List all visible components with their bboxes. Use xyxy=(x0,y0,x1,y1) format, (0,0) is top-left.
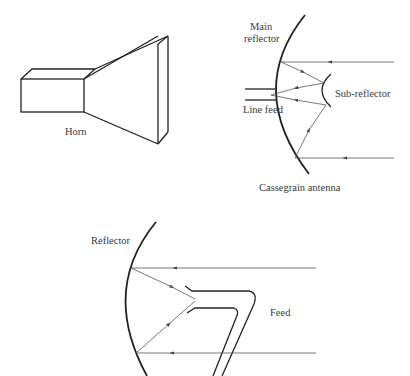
sub-reflector-label: Sub-reflector xyxy=(335,88,391,99)
horn-label: Horn xyxy=(65,126,87,137)
reflector-label: Reflector xyxy=(91,235,131,246)
horn-antenna: Horn xyxy=(21,36,168,144)
main-reflector xyxy=(276,15,309,174)
line-feed-label: Line feed xyxy=(243,104,284,115)
main-reflector-label-line1: Main xyxy=(250,21,273,32)
feed-inner xyxy=(187,308,238,376)
feed-label: Feed xyxy=(270,307,291,318)
main-reflector-label-line2: reflector xyxy=(244,33,280,44)
feed-outer xyxy=(185,286,255,376)
cassegrain-antenna: Main reflector Sub-reflector Line feed C… xyxy=(243,15,394,193)
cassegrain-title: Cassegrain antenna xyxy=(259,182,341,193)
antenna-diagrams: Horn Main reflector Sub-reflector Line f… xyxy=(0,0,410,376)
offset-feed-antenna: Reflector Feed xyxy=(91,222,316,376)
sub-reflector xyxy=(322,74,331,107)
